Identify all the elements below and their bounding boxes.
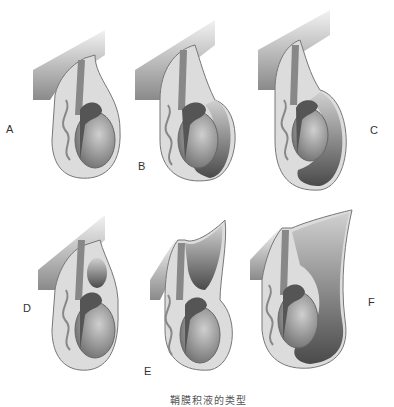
panel-label-f: F [368, 296, 375, 308]
panel-label-d: D [23, 302, 31, 314]
panel-b [135, 20, 235, 181]
cord-hydrocele [87, 258, 107, 288]
panel-d [38, 215, 118, 370]
figure-caption: 鞘膜积液的类型 [170, 392, 247, 407]
panel-f [250, 210, 352, 368]
panel-label-e: E [144, 365, 151, 377]
panel-label-a: A [6, 123, 13, 135]
panel-a [33, 30, 120, 178]
panel-c [258, 10, 346, 190]
panel-label-b: B [138, 160, 145, 172]
panel-e [150, 220, 232, 370]
panel-label-c: C [370, 124, 378, 136]
